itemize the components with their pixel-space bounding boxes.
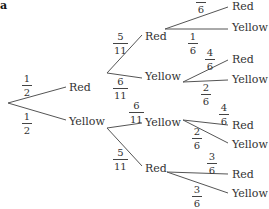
prob-l1-yellow: 12: [22, 112, 32, 136]
node-l1-yellow: Yellow: [69, 116, 105, 127]
node-l3-ry-red: Red: [232, 54, 254, 65]
node-l3-ry-yellow: Yellow: [232, 74, 268, 85]
prob-l2-red-yellow: 611: [113, 77, 128, 101]
prob-l3-yr-yellow: 36: [192, 185, 202, 209]
prob-l3-yy-red: 46: [219, 103, 229, 127]
node-l3-yr-yellow: Yellow: [232, 188, 268, 199]
prob-l2-yellow-red: 511: [113, 148, 128, 172]
branch-l1-red: [8, 87, 66, 103]
branch-l1-yellow: [8, 103, 66, 120]
node-l1-red: Red: [69, 82, 91, 93]
prob-l3-rr-yellow: 16: [188, 32, 198, 56]
prob-l2-red-red: 511: [113, 32, 128, 56]
node-l3-yy-red: Red: [232, 120, 254, 131]
node-l3-rr-yellow: Yellow: [232, 22, 268, 33]
prob-l3-ry-yellow: 26: [201, 83, 211, 107]
node-l3-yy-yellow: Yellow: [232, 139, 268, 150]
prob-l2-yellow-yellow: 611: [129, 101, 144, 125]
node-l2-red-yellow: Yellow: [145, 71, 181, 82]
node-l3-rr-red: Red: [232, 1, 254, 12]
prob-l3-rr-red: 56: [196, 0, 206, 15]
node-l2-yellow-yellow: Yellow: [145, 117, 181, 128]
node-l2-yellow-red: Red: [145, 163, 167, 174]
prob-l3-ry-red: 46: [205, 48, 215, 72]
prob-l1-red: 12: [22, 74, 32, 98]
node-l3-yr-red: Red: [232, 169, 254, 180]
prob-l3-yr-red: 36: [207, 152, 217, 176]
branch-l3-yr-red: [167, 172, 228, 174]
node-l2-red-red: Red: [145, 31, 167, 42]
prob-l3-yy-yellow: 26: [192, 127, 202, 151]
